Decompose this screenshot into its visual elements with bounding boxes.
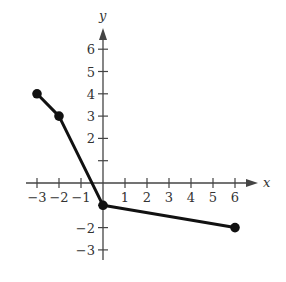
function-graph: xy −3−2−1123456−3−223456	[0, 0, 286, 282]
x-tick-label: −3	[27, 190, 46, 205]
x-tick-label: 4	[187, 190, 195, 205]
tick-labels: −3−2−1123456−3−223456	[27, 42, 239, 258]
y-tick-label: −2	[76, 221, 95, 236]
data-point-marker	[230, 223, 240, 233]
data-series	[32, 89, 240, 232]
y-tick-label: 5	[87, 65, 95, 80]
data-point-marker	[98, 201, 108, 211]
y-tick-label: 2	[87, 131, 95, 146]
y-tick-label: 4	[87, 87, 95, 102]
function-line	[37, 94, 235, 228]
x-tick-label: 2	[143, 190, 151, 205]
x-tick-label: 3	[165, 190, 173, 205]
x-tick-label: −1	[71, 190, 90, 205]
y-tick-label: 3	[87, 109, 95, 124]
x-tick-label: 6	[231, 190, 239, 205]
x-tick-label: −2	[49, 190, 68, 205]
x-axis-arrow-icon	[246, 179, 258, 187]
y-axis-arrow-icon	[99, 28, 107, 40]
y-tick-label: −3	[76, 243, 95, 258]
ticks	[37, 49, 235, 250]
y-axis-label: y	[98, 8, 107, 23]
y-tick-label: 6	[87, 42, 95, 57]
x-tick-label: 5	[209, 190, 217, 205]
x-tick-label: 1	[121, 190, 129, 205]
data-point-marker	[32, 89, 42, 99]
axes: xy	[26, 8, 271, 260]
x-axis-label: x	[263, 175, 271, 190]
data-point-marker	[54, 111, 64, 121]
